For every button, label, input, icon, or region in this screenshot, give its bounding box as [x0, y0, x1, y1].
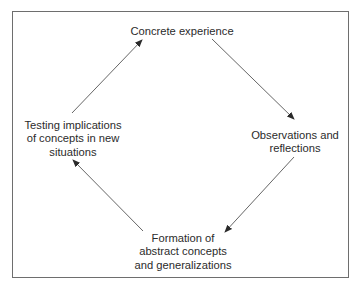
arrow-bottom-to-left	[73, 160, 143, 231]
arrow-right-to-bottom	[225, 157, 294, 232]
node-label-line: of concepts in new	[14, 132, 132, 145]
node-label-line: abstract concepts	[118, 245, 248, 258]
node-observations-and-reflections: Observations and reflections	[244, 129, 346, 156]
node-label-line: and generalizations	[118, 259, 248, 272]
arrow-left-to-top	[72, 40, 142, 113]
node-label-line: reflections	[244, 142, 346, 155]
node-label-line: Observations and	[244, 129, 346, 142]
node-label-line: situations	[14, 146, 132, 159]
node-label-line: Concrete experience	[112, 25, 252, 38]
node-testing-implications: Testing implications of concepts in new …	[14, 119, 132, 159]
arrow-top-to-right	[212, 39, 294, 119]
node-label-line: Testing implications	[14, 119, 132, 132]
node-concrete-experience: Concrete experience	[112, 25, 252, 38]
node-formation-of-abstract-concepts: Formation of abstract concepts and gener…	[118, 232, 248, 272]
node-label-line: Formation of	[118, 232, 248, 245]
